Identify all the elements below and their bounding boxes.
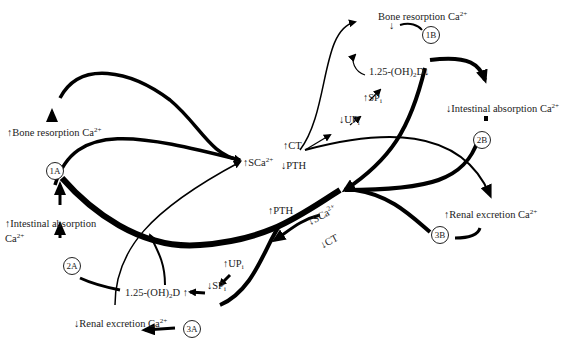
arrow-2B-to-low-sca [345, 140, 478, 190]
node-1B: 1B [422, 26, 440, 44]
bone-resorption-up-label: ↑Bone resorption Ca2+ [7, 124, 101, 139]
arrow-3B-to-low-sca [355, 190, 430, 232]
node-1A: 1A [46, 162, 64, 180]
up-i-up-label: ↑UPi [223, 258, 244, 273]
bone-res-to-1B [400, 24, 422, 30]
pth-down-label: ↓PTH [281, 160, 306, 172]
3B-tail [455, 228, 480, 238]
sp-i-down-label: ↓SPi [207, 280, 226, 295]
node-3A: 3A [183, 320, 201, 338]
high-serum-ca-label: ↑SCa2+ [243, 154, 273, 169]
renal-excretion-down-label: ↓Renal excretion Ca2+ [74, 315, 167, 330]
node-2A: 2A [63, 257, 81, 275]
2A-link [80, 278, 120, 290]
up-i-down-label: ↓UPi [339, 114, 360, 129]
main-low-serum-curve [62, 178, 340, 245]
ct-to-1B-curve [300, 22, 355, 150]
vitd-down-label: 1.25-(OH)2D↓ [369, 66, 429, 81]
intestinal-absorption-up-label: ↑Intestinal absorptionCa2+ [5, 218, 96, 245]
pth-up-label: ↑PTH [268, 205, 293, 217]
vitd-to-bone-arrow [353, 55, 365, 75]
spi-to-vitd-low [190, 292, 205, 293]
curve-1B-to-intestinal [430, 59, 485, 80]
node-2B: 2B [473, 131, 491, 149]
vitd-up-label: 1.25-(OH)2D ↑ [125, 287, 188, 302]
ct-up-label: ↑CT [283, 140, 302, 152]
sp-i-up-label: ↑SPi [363, 92, 382, 107]
node-3B: 3B [431, 226, 449, 244]
renal-excretion-up-label: ↑Renal excretion Ca2+ [444, 206, 537, 221]
intestinal-absorption-down-label: ↓Intestinal absorption Ca2+ [446, 100, 559, 115]
bone-resorption-down-arrow: ↓ [389, 20, 394, 32]
calcium-homeostasis-diagram [0, 0, 562, 349]
arrow-1B-to-low-sca [345, 68, 425, 190]
